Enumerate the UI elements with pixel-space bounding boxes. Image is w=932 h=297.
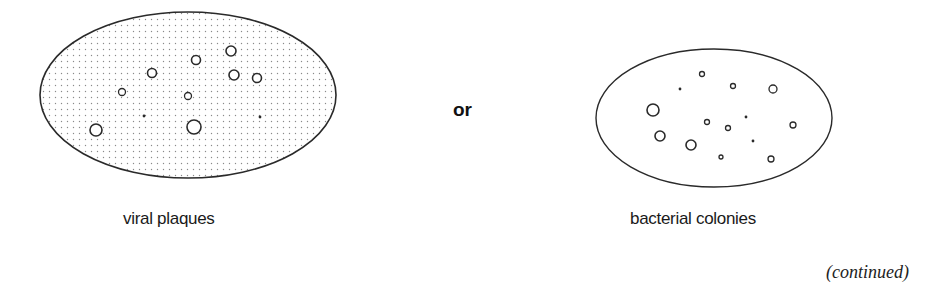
plaque-dot <box>259 116 262 119</box>
plaque-ring <box>187 120 201 134</box>
bacterial-colonies-label: bacterial colonies <box>630 209 756 229</box>
plaque-ring <box>185 93 192 100</box>
plaque-ring <box>192 56 201 65</box>
continued-label: (continued) <box>826 262 909 283</box>
diagram-canvas <box>0 0 932 297</box>
dish-outline <box>596 49 832 187</box>
plaque-ring <box>90 124 102 136</box>
plaque-ring <box>119 89 126 96</box>
viral-plaque-dish <box>40 12 336 178</box>
plaque-ring <box>253 74 262 83</box>
bacterial-colony-dish <box>596 49 832 187</box>
colony-dot <box>679 88 682 91</box>
viral-plaques-label: viral plaques <box>123 209 215 229</box>
plaque-ring <box>229 70 239 80</box>
plaque-ring <box>226 46 236 56</box>
plaque-ring <box>148 69 157 78</box>
colony-dot <box>745 116 748 119</box>
colony-dot <box>752 140 755 143</box>
or-connector-text: or <box>453 99 472 121</box>
plaque-dot <box>143 115 146 118</box>
